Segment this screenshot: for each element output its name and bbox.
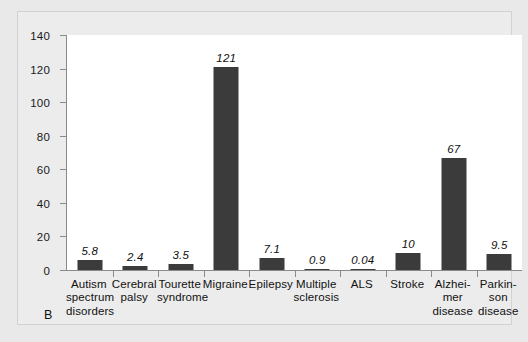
y-axis-tick-label: 100 bbox=[30, 97, 50, 109]
bar-slot: 5.8 bbox=[67, 35, 113, 270]
bar-slot: 121 bbox=[204, 35, 250, 270]
panel-label: B bbox=[44, 308, 52, 322]
y-axis-tick: 40 bbox=[60, 203, 67, 204]
x-axis-tick bbox=[113, 270, 114, 277]
bar[interactable] bbox=[441, 158, 466, 270]
category-label-line: Epilepsy bbox=[248, 278, 294, 291]
bar-value-label: 7.1 bbox=[263, 243, 280, 255]
bar-slot: 9.5 bbox=[477, 35, 523, 270]
category-label-line: Tourette bbox=[157, 278, 203, 291]
y-axis-tick: 120 bbox=[60, 69, 67, 70]
x-axis-tick bbox=[204, 270, 205, 277]
bar[interactable] bbox=[487, 254, 512, 270]
x-axis-category-label: Autismspectrumdisorders bbox=[66, 278, 112, 318]
y-axis-tick: 140 bbox=[60, 35, 67, 36]
figure-frame: 020406080100120140 5.82.43.51217.10.90.0… bbox=[17, 11, 512, 325]
bar-value-label: 2.4 bbox=[127, 251, 144, 263]
bar-value-label: 5.8 bbox=[81, 245, 98, 257]
category-label-line: palsy bbox=[112, 291, 158, 304]
y-axis-tick-label: 0 bbox=[43, 265, 50, 277]
bar[interactable] bbox=[396, 253, 421, 270]
bar-value-label: 3.5 bbox=[172, 249, 189, 261]
category-label-line: disease bbox=[476, 305, 522, 318]
y-axis-tick-label: 20 bbox=[37, 231, 50, 243]
plot-area: 020406080100120140 5.82.43.51217.10.90.0… bbox=[66, 35, 522, 271]
bar-value-label: 9.5 bbox=[491, 239, 508, 251]
y-axis-tick-label: 40 bbox=[37, 198, 50, 210]
category-label-line: syndrome bbox=[157, 291, 203, 304]
category-label-line: spectrum bbox=[66, 291, 112, 304]
figure-panel: 020406080100120140 5.82.43.51217.10.90.0… bbox=[0, 0, 528, 342]
x-axis-category-label: ALS bbox=[339, 278, 385, 291]
x-axis-category-label: Cerebralpalsy bbox=[112, 278, 158, 305]
category-label-line: Alzhei- bbox=[430, 278, 476, 291]
y-axis-tick: 100 bbox=[60, 102, 67, 103]
category-label-line: Autism bbox=[66, 278, 112, 291]
x-axis-category-label: Multiplesclerosis bbox=[294, 278, 340, 305]
category-label-line: Cerebral bbox=[112, 278, 158, 291]
bar-series: 5.82.43.51217.10.90.0410679.5 bbox=[67, 35, 522, 270]
category-label-line: ALS bbox=[339, 278, 385, 291]
x-axis-tick bbox=[386, 270, 387, 277]
x-axis-category-label: Epilepsy bbox=[248, 278, 294, 291]
x-axis-tick bbox=[340, 270, 341, 277]
bar[interactable] bbox=[350, 269, 375, 270]
bar[interactable] bbox=[214, 67, 239, 270]
x-axis-tick bbox=[249, 270, 250, 277]
y-axis-tick: 20 bbox=[60, 236, 67, 237]
category-label-line: Migraine bbox=[203, 278, 249, 291]
bar[interactable] bbox=[305, 269, 330, 271]
bar-slot: 2.4 bbox=[113, 35, 159, 270]
y-axis-tick: 60 bbox=[60, 169, 67, 170]
x-axis-category-labels: AutismspectrumdisordersCerebralpalsyTour… bbox=[66, 278, 522, 334]
bar-value-label: 121 bbox=[216, 52, 236, 64]
bar-value-label: 10 bbox=[402, 238, 415, 250]
bar-slot: 7.1 bbox=[249, 35, 295, 270]
bar[interactable] bbox=[123, 266, 148, 270]
category-label-line: mer bbox=[430, 291, 476, 304]
y-axis-tick-label: 80 bbox=[37, 131, 50, 143]
bar[interactable] bbox=[77, 260, 102, 270]
category-label-line: sclerosis bbox=[294, 291, 340, 304]
x-axis-category-label: Tourettesyndrome bbox=[157, 278, 203, 305]
category-label-line: disease bbox=[430, 305, 476, 318]
bar-value-label: 0.04 bbox=[351, 254, 374, 266]
x-axis-category-label: Alzhei-merdisease bbox=[430, 278, 476, 318]
category-label-line: Stroke bbox=[385, 278, 431, 291]
category-label-line: Parkin- bbox=[476, 278, 522, 291]
category-label-line: son bbox=[476, 291, 522, 304]
x-axis-tick bbox=[477, 270, 478, 277]
x-axis-category-label: Migraine bbox=[203, 278, 249, 291]
x-axis-tick bbox=[431, 270, 432, 277]
x-axis-category-label: Parkin-sondisease bbox=[476, 278, 522, 318]
bar-slot: 67 bbox=[431, 35, 477, 270]
x-axis-category-label: Stroke bbox=[385, 278, 431, 291]
y-axis-tick-label: 140 bbox=[30, 30, 50, 42]
bar[interactable] bbox=[168, 264, 193, 270]
x-axis-tick bbox=[158, 270, 159, 277]
y-axis-tick-label: 60 bbox=[37, 164, 50, 176]
bar-slot: 0.9 bbox=[295, 35, 341, 270]
x-axis-tick bbox=[295, 270, 296, 277]
y-axis-tick: 80 bbox=[60, 136, 67, 137]
bar-slot: 10 bbox=[386, 35, 432, 270]
bar-value-label: 0.9 bbox=[309, 254, 326, 266]
bar-slot: 0.04 bbox=[340, 35, 386, 270]
category-label-line: Multiple bbox=[294, 278, 340, 291]
bar-value-label: 67 bbox=[447, 143, 460, 155]
bar-slot: 3.5 bbox=[158, 35, 204, 270]
bar[interactable] bbox=[259, 258, 284, 270]
y-axis-tick-label: 120 bbox=[30, 64, 50, 76]
category-label-line: disorders bbox=[66, 305, 112, 318]
y-axis-tick: 0 bbox=[60, 270, 67, 271]
